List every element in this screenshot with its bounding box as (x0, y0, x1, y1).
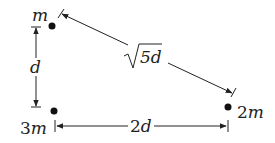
diagonal-distance-label: 5d (124, 44, 162, 68)
svg-text:5d: 5d (140, 47, 162, 67)
mass-top-label: m (32, 5, 48, 25)
mass-right-label: 2m (237, 102, 264, 122)
mass-top-dot (49, 23, 56, 30)
mass-bottom-left-dot (51, 108, 58, 115)
mass-right-dot (225, 104, 232, 111)
vertical-distance-label: d (30, 57, 41, 77)
horizontal-distance-label: 2d (130, 116, 152, 136)
three-mass-diagram: m 3m 2m d 5d 2d (0, 0, 275, 143)
mass-bottom-left-label: 3m (20, 118, 47, 138)
